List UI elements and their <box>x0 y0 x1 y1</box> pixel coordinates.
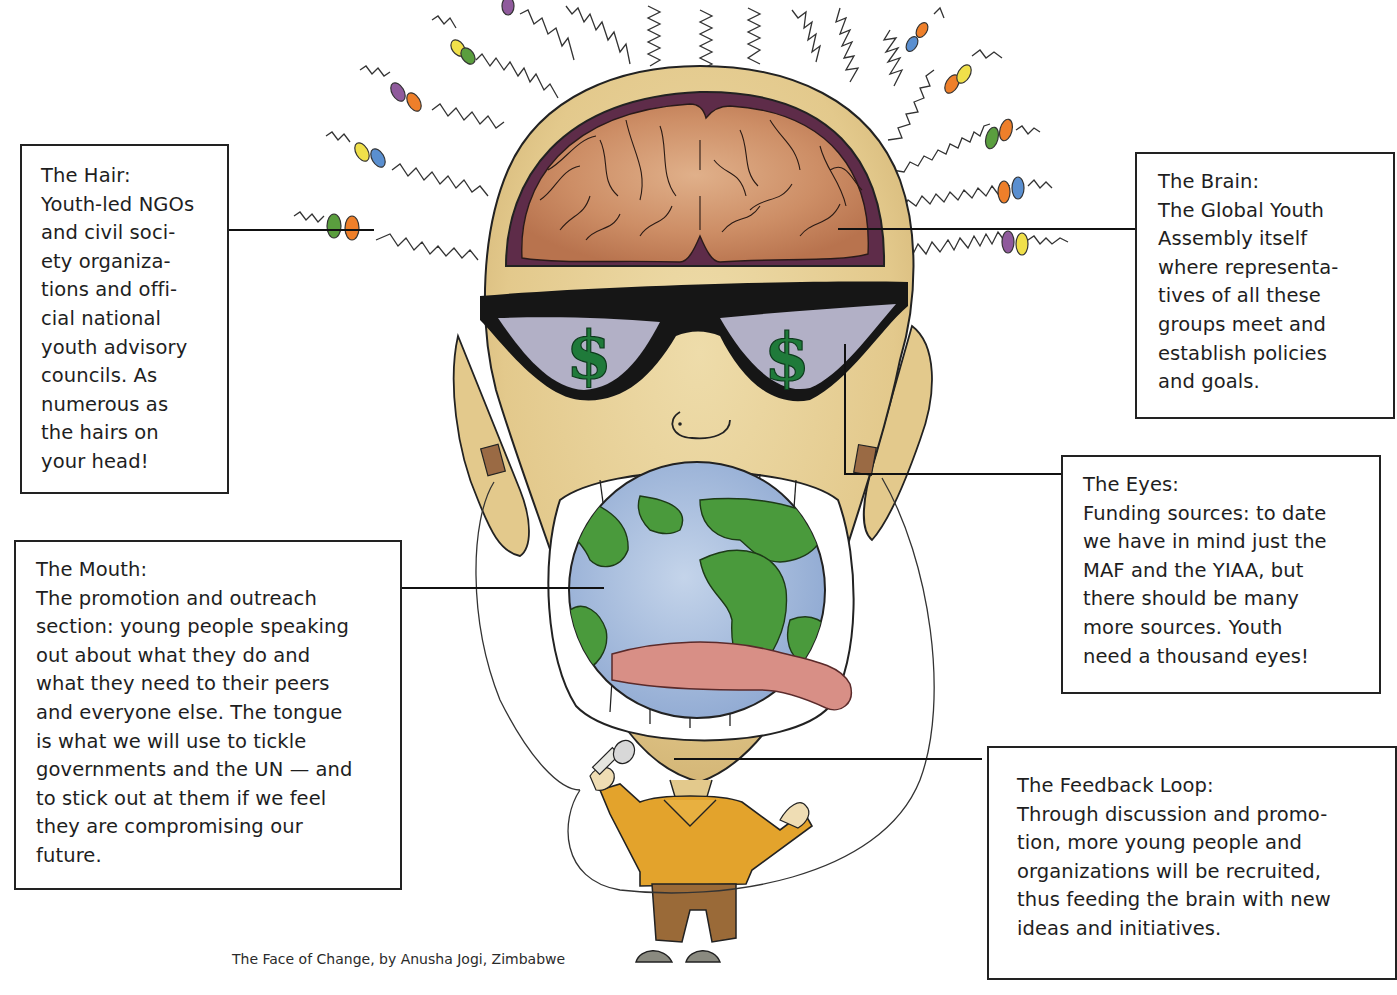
callout-mouth-line: is what we will use to tickle <box>36 728 400 757</box>
callout-hair-title: The Hair: <box>41 162 227 191</box>
callout-mouth-line: they are compromising our <box>36 813 400 842</box>
image-caption: The Face of Change, by Anusha Jogi, Zimb… <box>232 951 565 967</box>
callout-brain-line: The Global Youth <box>1158 197 1393 226</box>
callout-mouth-line: to stick out at them if we feel <box>36 785 400 814</box>
callout-mouth-line: governments and the UN — and <box>36 756 400 785</box>
svg-text:$: $ <box>566 316 612 394</box>
callout-feedback-line: thus feeding the brain with new <box>1017 886 1395 915</box>
callout-brain-line: tives of all these <box>1158 282 1393 311</box>
callout-mouth-line: section: young people speaking <box>36 613 400 642</box>
callout-eyes-line: Funding sources: to date <box>1083 500 1379 529</box>
callout-mouth-line: what they need to their peers <box>36 670 400 699</box>
callout-hair-line: and civil soci- <box>41 219 227 248</box>
callout-mouth-title: The Mouth: <box>36 556 400 585</box>
callout-mouth-line: and everyone else. The tongue <box>36 699 400 728</box>
callout-feedback-line: ideas and initiatives. <box>1017 915 1395 944</box>
callout-eyes-line: MAF and the YIAA, but <box>1083 557 1379 586</box>
microphone-icon <box>593 737 639 775</box>
callout-hair: The Hair: Youth-led NGOs and civil soci-… <box>20 144 229 494</box>
callout-hair-line: ety organiza- <box>41 248 227 277</box>
callout-hair-line: the hairs on <box>41 419 227 448</box>
callout-mouth: The Mouth: The promotion and outreach se… <box>14 540 402 890</box>
callout-hair-line: tions and offi- <box>41 276 227 305</box>
callout-hair-line: councils. As <box>41 362 227 391</box>
callout-mouth-line: future. <box>36 842 400 871</box>
callout-feedback-line: tion, more young people and <box>1017 829 1395 858</box>
svg-text:$: $ <box>764 318 810 396</box>
callout-hair-line: Youth-led NGOs <box>41 191 227 220</box>
callout-eyes: The Eyes: Funding sources: to date we ha… <box>1061 455 1381 694</box>
callout-mouth-line: out about what they do and <box>36 642 400 671</box>
callout-mouth-line: The promotion and outreach <box>36 585 400 614</box>
callout-eyes-line: we have in mind just the <box>1083 528 1379 557</box>
callout-eyes-line: more sources. Youth <box>1083 614 1379 643</box>
callout-brain-line: establish policies <box>1158 340 1393 369</box>
callout-brain-line: and goals. <box>1158 368 1393 397</box>
callout-hair-line: your head! <box>41 448 227 477</box>
callout-hair-line: cial national <box>41 305 227 334</box>
callout-feedback-line: Through discussion and promo- <box>1017 801 1395 830</box>
callout-feedback-title: The Feedback Loop: <box>1017 772 1395 801</box>
callout-hair-line: youth advisory <box>41 334 227 363</box>
callout-feedback-line: organizations will be recruited, <box>1017 858 1395 887</box>
callout-eyes-line: there should be many <box>1083 585 1379 614</box>
callout-brain-title: The Brain: <box>1158 168 1393 197</box>
callout-eyes-title: The Eyes: <box>1083 471 1379 500</box>
callout-brain-line: where representa- <box>1158 254 1393 283</box>
callout-brain-line: groups meet and <box>1158 311 1393 340</box>
callout-brain-line: Assembly itself <box>1158 225 1393 254</box>
speaker-figure <box>590 767 812 962</box>
callout-feedback-loop: The Feedback Loop: Through discussion an… <box>987 746 1397 980</box>
callout-eyes-line: need a thousand eyes! <box>1083 643 1379 672</box>
callout-brain: The Brain: The Global Youth Assembly its… <box>1135 152 1395 419</box>
callout-hair-line: numerous as <box>41 391 227 420</box>
